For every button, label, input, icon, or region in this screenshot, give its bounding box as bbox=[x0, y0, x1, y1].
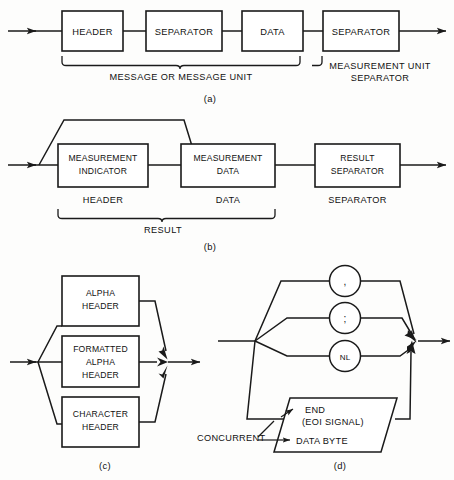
panel-a-caption: (a) bbox=[204, 93, 216, 104]
panel-d-fanout-nl bbox=[255, 341, 330, 356]
panel-b-box2-line2: DATA bbox=[217, 166, 240, 176]
panel-d-circle-semicolon-glyph: ; bbox=[344, 313, 347, 324]
panel-c-box1-line1: ALPHA bbox=[86, 288, 115, 298]
panel-c-box3-line1: CHARACTER bbox=[73, 409, 128, 419]
panel-a: HEADER SEPARATOR DATA SEPARATOR MESSAGE … bbox=[8, 11, 446, 104]
panel-a-brace bbox=[62, 56, 300, 69]
panel-b-box1-line2: INDICATOR bbox=[79, 166, 127, 176]
panel-c-box1-line2: HEADER bbox=[82, 301, 119, 311]
panel-b-box3-line1: RESULT bbox=[340, 153, 375, 163]
panel-c-fanout-top bbox=[38, 326, 62, 362]
panel-c-box2-line2: ALPHA bbox=[86, 357, 115, 367]
panel-a-side-tick bbox=[312, 56, 322, 66]
diagram-canvas: HEADER SEPARATOR DATA SEPARATOR MESSAGE … bbox=[0, 0, 454, 480]
panel-c-caption: (c) bbox=[99, 460, 111, 471]
panel-d-circle-nl-glyph: NL bbox=[340, 353, 351, 362]
panel-c-box2-line3: HEADER bbox=[82, 370, 119, 380]
panel-d-parallelogram-line2: (EOI SIGNAL) bbox=[302, 417, 364, 427]
panel-c: ALPHA HEADER FORMATTED ALPHA HEADER CHAR… bbox=[10, 276, 200, 471]
panel-d-converge-semicolon bbox=[361, 318, 412, 333]
panel-d-parallelogram-line1: END bbox=[305, 405, 325, 415]
panel-a-side-label-line2: SEPARATOR bbox=[351, 73, 410, 83]
panel-d-concurrent-leader-upper bbox=[258, 421, 274, 437]
panel-c-fanout-bottom bbox=[38, 362, 62, 424]
panel-b-box1-under-label: HEADER bbox=[83, 195, 124, 205]
panel-d: , ; NL END (EOI SIGNAL) DATA BYTE CONCUR… bbox=[197, 266, 450, 472]
figure-diagram: HEADER SEPARATOR DATA SEPARATOR MESSAGE … bbox=[0, 0, 454, 480]
panel-c-converge-bottom bbox=[139, 374, 166, 422]
panel-a-box-header-label: HEADER bbox=[72, 27, 113, 37]
panel-d-converge-parallelogram bbox=[395, 352, 411, 419]
panel-b-brace-label: RESULT bbox=[144, 225, 182, 235]
panel-d-parallelogram-line3: DATA BYTE bbox=[296, 436, 348, 446]
panel-c-box2-line1: FORMATTED bbox=[73, 344, 128, 354]
panel-d-fanout-end-databyte bbox=[247, 341, 289, 419]
panel-a-box-separator-1-label: SEPARATOR bbox=[155, 27, 214, 37]
panel-b-box3-line2: SEPARATOR bbox=[331, 166, 384, 176]
panel-a-side-label-line1: MEASUREMENT UNIT bbox=[329, 61, 431, 71]
panel-c-converge-middle-arrowhead bbox=[157, 358, 168, 367]
panel-b-box1-line1: MEASUREMENT bbox=[68, 153, 138, 163]
panel-c-converge-top bbox=[139, 301, 166, 351]
panel-a-box-separator-2-label: SEPARATOR bbox=[332, 27, 391, 37]
panel-d-converge-nl bbox=[361, 348, 412, 356]
panel-b-brace bbox=[58, 209, 275, 222]
panel-a-box-data-label: DATA bbox=[260, 27, 285, 37]
panel-b-box2-under-label: DATA bbox=[216, 195, 241, 205]
panel-d-caption: (d) bbox=[334, 460, 346, 471]
panel-b-caption: (b) bbox=[204, 241, 216, 252]
panel-c-box3-line2: HEADER bbox=[82, 422, 119, 432]
panel-b-box3-under-label: SEPARATOR bbox=[328, 195, 387, 205]
panel-b-box2-line1: MEASUREMENT bbox=[193, 153, 263, 163]
panel-d-circle-comma-glyph: , bbox=[344, 276, 347, 287]
panel-b: MEASUREMENT INDICATOR HEADER MEASUREMENT… bbox=[8, 120, 446, 252]
panel-d-fanout-semicolon bbox=[255, 318, 330, 341]
panel-d-concurrent-label: CONCURRENT bbox=[197, 433, 265, 443]
panel-a-brace-label: MESSAGE OR MESSAGE UNIT bbox=[110, 72, 253, 82]
